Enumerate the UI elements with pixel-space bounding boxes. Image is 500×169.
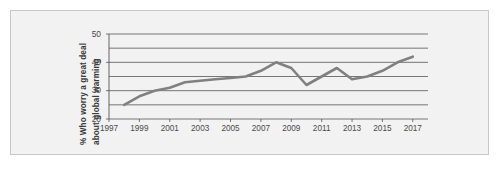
data-series-line — [124, 57, 413, 105]
x-tick-label-2001: 2001 — [157, 124, 183, 133]
chart-figure: % Who worry a great deal about global wa… — [0, 0, 500, 169]
y-tick-label-40: 40 — [85, 57, 101, 67]
y-tick-label-50: 50 — [85, 29, 101, 39]
x-tick-label-2017: 2017 — [400, 124, 426, 133]
series-line-0 — [124, 57, 413, 105]
x-tick-label-2007: 2007 — [248, 124, 274, 133]
x-tick-label-2015: 2015 — [369, 124, 395, 133]
x-tick-label-1997: 1997 — [96, 124, 122, 133]
x-tick-marks — [106, 34, 413, 122]
x-tick-label-2005: 2005 — [218, 124, 244, 133]
y-tick-label-20: 20 — [85, 114, 101, 124]
x-tick-label-2011: 2011 — [309, 124, 335, 133]
chart-frame: % Who worry a great deal about global wa… — [10, 10, 489, 155]
x-tick-label-2003: 2003 — [187, 124, 213, 133]
x-tick-label-1999: 1999 — [126, 124, 152, 133]
x-tick-label-2009: 2009 — [278, 124, 304, 133]
x-tick-label-2013: 2013 — [339, 124, 365, 133]
gridlines-group — [109, 34, 428, 119]
y-tick-label-30: 30 — [85, 85, 101, 95]
